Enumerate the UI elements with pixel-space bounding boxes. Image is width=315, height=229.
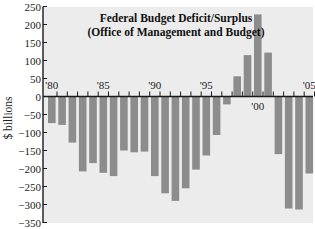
bar-1996 (213, 97, 221, 136)
bar-1995 (203, 97, 211, 156)
chart-subtitle: (Office of Management and Budget) (88, 26, 265, 39)
bar-1993 (182, 97, 190, 189)
bar-2005 (306, 97, 314, 174)
y-tick-label: −150 (18, 145, 41, 157)
bar-1990 (151, 97, 159, 177)
bar-1987 (120, 97, 128, 151)
y-tick-label: 200 (25, 19, 42, 31)
budget-deficit-chart: 250200150100500−50−100−150−200−250−300−3… (0, 0, 315, 229)
bar-2004 (295, 97, 303, 210)
y-tick-label: −350 (18, 217, 41, 229)
y-tick-label: 50 (30, 73, 42, 85)
bar-1998 (233, 76, 241, 96)
bar-2001 (264, 53, 272, 97)
y-tick-label: 250 (25, 1, 42, 13)
x-tick-label: '85 (97, 79, 110, 91)
y-axis-title: $ billions (2, 96, 14, 140)
chart-title: Federal Budget Deficit/Surplus (100, 12, 253, 25)
y-tick-label: −250 (18, 181, 41, 193)
bar-2003 (285, 97, 293, 209)
bar-1986 (110, 97, 118, 177)
bar-1991 (161, 97, 169, 194)
y-tick-label: −100 (18, 127, 41, 139)
bar-1980 (48, 97, 56, 124)
bar-2002 (275, 97, 283, 155)
bar-1983 (79, 97, 87, 172)
bar-1985 (100, 97, 108, 173)
bar-1997 (223, 97, 231, 105)
x-tick-label: '00 (251, 100, 264, 112)
y-tick-label: −300 (18, 199, 41, 211)
x-tick-label: '80 (45, 79, 58, 91)
x-tick-label: '90 (148, 79, 161, 91)
y-axis: 250200150100500−50−100−150−200−250−300−3… (18, 1, 47, 229)
y-tick-label: −200 (18, 163, 41, 175)
x-tick-label: '95 (200, 79, 213, 91)
x-tick-label: '05 (303, 79, 315, 91)
bar-1981 (58, 97, 66, 125)
bar-1989 (141, 97, 149, 152)
bar-1988 (130, 97, 138, 153)
bar-1984 (89, 97, 97, 164)
bar-1992 (172, 97, 180, 201)
y-tick-label: 150 (25, 37, 42, 49)
bar-1982 (69, 97, 77, 143)
y-tick-label: −50 (24, 109, 42, 121)
y-tick-label: 0 (36, 91, 42, 103)
bar-1999 (244, 55, 252, 96)
bar-1994 (192, 97, 200, 170)
y-tick-label: 100 (25, 55, 42, 67)
